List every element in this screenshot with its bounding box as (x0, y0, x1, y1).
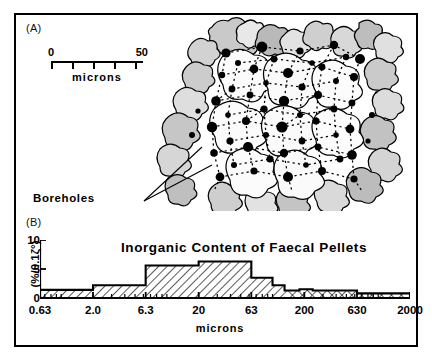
x-tick-label: 2.0 (85, 304, 101, 316)
grain-outlines (157, 18, 404, 211)
x-tick-label: 6.3 (138, 304, 154, 316)
x-tick-label: 63 (245, 304, 258, 316)
y-tick-labels: 0510 (16, 236, 42, 298)
scale-bar-ruler (48, 61, 146, 70)
x-tick-label: 630 (347, 304, 366, 316)
boreholes-annotation: Boreholes (33, 192, 95, 204)
y-tick-label: 10 (27, 234, 40, 246)
panel-a-micrograph (16, 15, 416, 211)
panel-a-label: (A) (26, 22, 42, 34)
histogram-bar (93, 285, 146, 298)
histogram-bar (199, 261, 252, 298)
histogram-bar (146, 266, 199, 298)
histogram-bar (273, 285, 285, 298)
scale-bar-start-label: 0 (48, 46, 54, 58)
x-tick-label: 0.63 (29, 304, 51, 316)
histogram-bar (313, 290, 357, 298)
histogram-bar (40, 290, 93, 298)
panel-b-histogram: Inorganic Content of Faecal Pellets (%/0… (16, 212, 416, 344)
x-tick-label: 20 (192, 304, 205, 316)
histogram-bars (40, 261, 410, 298)
x-tick-label: 200 (295, 304, 314, 316)
histogram-bar (300, 289, 313, 298)
figure-root: (A) 0 50 microns Boreholes (B) Inorganic… (0, 0, 432, 356)
x-tick-label: 2000 (397, 304, 423, 316)
burrow-network-drawing (16, 15, 416, 211)
histogram-plot (40, 240, 410, 306)
x-axis-label: microns (40, 322, 400, 334)
scale-bar-unit-label: microns (48, 71, 146, 83)
x-tick-labels: 0.632.06.320632006302000 (40, 304, 400, 320)
histogram-bar (285, 290, 300, 298)
scale-bar: 0 50 microns (48, 46, 146, 83)
scale-bar-end-label: 50 (136, 46, 148, 58)
